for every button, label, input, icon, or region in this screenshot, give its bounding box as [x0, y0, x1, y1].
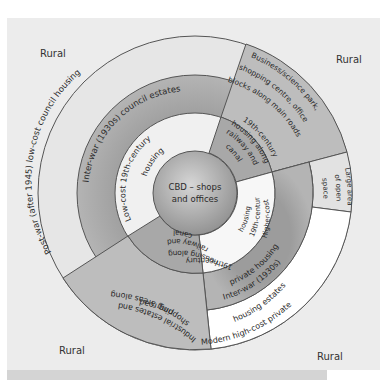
- rural-label-bottom-right: Rural: [317, 351, 343, 362]
- cbd-label-line2: and offices: [172, 194, 219, 204]
- rural-label-bottom-left: Rural: [59, 345, 85, 356]
- cbd-label-line1: CBD – shops: [169, 182, 222, 192]
- zone-cbd: [153, 151, 237, 235]
- open-space-label-3: space: [320, 178, 329, 199]
- rural-label-top-left: Rural: [40, 48, 66, 59]
- rural-label-top-right: Rural: [336, 54, 362, 65]
